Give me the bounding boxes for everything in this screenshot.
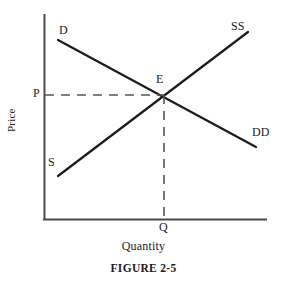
- equilibrium-point-label: E: [156, 73, 163, 85]
- figure-caption: FIGURE 2-5: [0, 263, 287, 275]
- figure-container: D SS DD S E P Q Price Quantity FIGURE 2-…: [0, 0, 287, 290]
- demand-curve-start-label: D: [59, 24, 68, 36]
- demand-curve: [58, 40, 256, 147]
- supply-curve-start-label: S: [48, 156, 55, 168]
- supply-curve: [58, 32, 248, 176]
- y-axis-title: Price: [6, 96, 20, 144]
- quantity-axis-tick-label: Q: [159, 221, 168, 233]
- price-axis-tick-label: P: [33, 87, 40, 99]
- supply-curve-end-label: SS: [231, 20, 244, 32]
- x-axis-title: Quantity: [0, 240, 287, 252]
- demand-curve-end-label: DD: [252, 126, 269, 138]
